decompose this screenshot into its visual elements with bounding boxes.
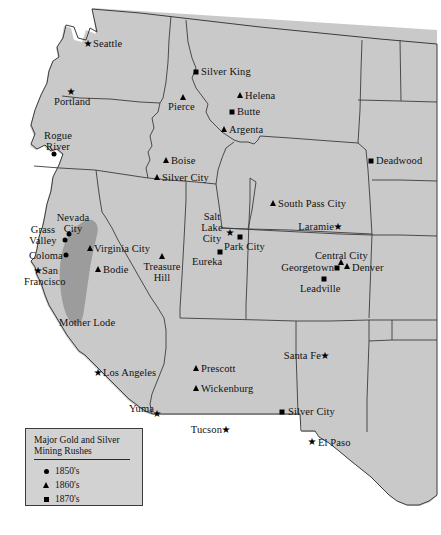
label-south-pass-city: South Pass City [278,198,346,209]
square-marker [335,266,340,271]
label-wickenburg: Wickenburg [201,383,253,394]
label-portland: Portland [54,96,90,107]
square-marker [238,235,243,240]
legend-label-1870s: 1870's [55,494,79,504]
triangle-marker-icon [40,482,52,488]
square-marker [280,410,285,415]
label-line-2: City [203,233,222,244]
legend-divider [34,459,130,460]
label-deadwood: Deadwood [376,155,422,166]
label-laramie: Laramie [284,221,334,232]
triangle-marker [180,94,186,100]
label-argenta: Argenta [229,124,263,135]
triangle-marker [221,126,227,132]
triangle-marker [159,253,165,259]
label-los-angeles: Los Angeles [103,367,156,378]
legend-title-line-1: Major Gold and Silver [34,435,120,445]
label-central-city: Central City [315,250,368,261]
label-silver-king: Silver King [201,66,251,77]
label-line-2: Hill [154,272,171,283]
triangle-marker [344,263,350,269]
square-marker [322,277,327,282]
triangle-marker [163,157,169,163]
legend-entry-1870s: 1870's [34,492,134,506]
legend-label-1860s: 1860's [55,480,79,490]
label-san-francisco: San Francisco [24,265,84,287]
square-marker [218,250,223,255]
label-leadville: Leadville [300,283,341,294]
star-marker: ★ [334,222,343,232]
label-rogue-river: Rogue River [40,130,76,152]
square-marker-icon [40,497,52,502]
triangle-marker [193,385,199,391]
circle-marker [64,253,69,258]
circle-marker [52,152,57,157]
triangle-marker [95,266,101,272]
label-line-1: Nevada [57,212,90,223]
label-treasure-hill: Treasure Hill [140,261,184,283]
label-line-1: Treasure [143,261,180,272]
legend-entry-1850s: 1850's [34,464,134,478]
label-silver-city-id: Silver City [162,172,209,183]
square-marker [230,110,235,115]
star-marker: ★ [321,351,330,361]
label-denver: Denver [352,262,384,273]
circle-marker-icon [40,469,52,474]
label-pierce: Pierce [168,101,195,112]
star-marker: ★ [308,437,317,447]
label-line-2: River [46,141,70,152]
legend-title: Major Gold and Silver Mining Rushes [34,435,134,457]
label-butte: Butte [237,106,260,117]
label-mother-lode: Mother Lode [59,317,115,328]
map-legend: Major Gold and Silver Mining Rushes 1850… [25,428,143,506]
label-prescott: Prescott [201,363,236,374]
label-coloma: Coloma [29,250,63,261]
triangle-marker [193,365,199,371]
star-marker: ★ [222,425,231,435]
label-bodie: Bodie [103,264,129,275]
mining-rushes-map: ★ Seattle ★ Portland Rogue River Silver … [0,0,441,535]
label-grass-valley: Grass Valley [22,224,64,246]
label-eureka: Eureka [192,256,222,267]
label-silver-city-nm: Silver City [288,406,335,417]
star-marker: ★ [84,39,93,49]
label-yuma: Yuma [118,403,154,414]
label-line-1: Salt Lake [201,211,222,233]
legend-title-line-2: Mining Rushes [34,446,92,456]
triangle-marker [154,174,160,180]
label-santa-fe: Santa Fe [275,350,321,361]
legend-entry-1860s: 1860's [34,478,134,492]
label-helena: Helena [245,90,275,101]
legend-label-1850s: 1850's [55,466,79,476]
label-line-1: San [24,265,58,276]
label-seattle: Seattle [93,38,122,49]
triangle-marker [87,245,93,251]
label-line-2: Valley [29,235,56,246]
triangle-marker [270,200,276,206]
square-marker [194,70,199,75]
label-boise: Boise [171,155,195,166]
triangle-marker [237,92,243,98]
label-salt-lake-city: Salt Lake City [192,211,232,244]
star-marker: ★ [94,368,103,378]
label-line-1: Grass [31,224,55,235]
label-line-2: Francisco [24,276,66,287]
label-line-2: City [64,223,83,234]
label-virginia-city: Virginia City [94,243,150,254]
label-georgetown: Georgetown [280,262,334,273]
label-el-paso: El Paso [318,437,351,448]
label-line-1: Rogue [44,130,72,141]
label-park-city: Park City [224,241,265,252]
square-marker [369,159,374,164]
label-tucson: Tucson [180,424,222,435]
